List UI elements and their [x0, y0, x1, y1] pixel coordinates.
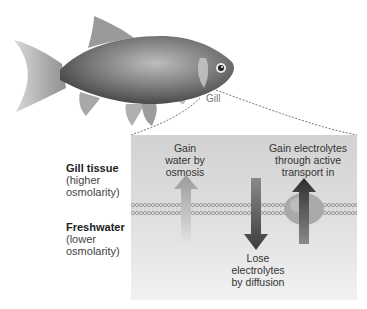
gill-tissue-line1: (higher	[66, 174, 120, 186]
osmosis-caption: Gain water by osmosis	[150, 142, 220, 178]
gill-label: Gill	[206, 93, 220, 104]
caption-line: water by	[150, 154, 220, 166]
freshwater-line1: (lower	[66, 233, 125, 245]
caption-line: osmosis	[150, 166, 220, 178]
freshwater-label: Freshwater (lower osmolarity)	[66, 221, 125, 257]
freshwater-title: Freshwater	[66, 221, 125, 233]
fish-illustration	[0, 0, 260, 140]
gill-tissue-line2: osmolarity)	[66, 186, 120, 198]
caption-line: Gain	[150, 142, 220, 154]
caption-line: Gain electrolytes	[258, 142, 358, 154]
gill-tissue-label: Gill tissue (higher osmolarity)	[66, 162, 120, 198]
caption-line: transport in	[258, 166, 358, 178]
diffusion-out-arrow-icon	[244, 178, 268, 250]
freshwater-line2: osmolarity)	[66, 245, 125, 257]
caption-line: electrolytes	[226, 264, 290, 276]
caption-line: through active	[258, 154, 358, 166]
water-osmosis-arrow-icon	[174, 175, 198, 245]
active-transport-arrow-icon	[292, 178, 316, 244]
tail-fin	[14, 40, 66, 112]
caption-line: Lose	[226, 252, 290, 264]
gill-tissue-title: Gill tissue	[66, 162, 120, 174]
caption-line: by diffusion	[226, 276, 290, 288]
diffusion-caption: Lose electrolytes by diffusion	[226, 252, 290, 288]
active-transport-caption: Gain electrolytes through active transpo…	[258, 142, 358, 178]
